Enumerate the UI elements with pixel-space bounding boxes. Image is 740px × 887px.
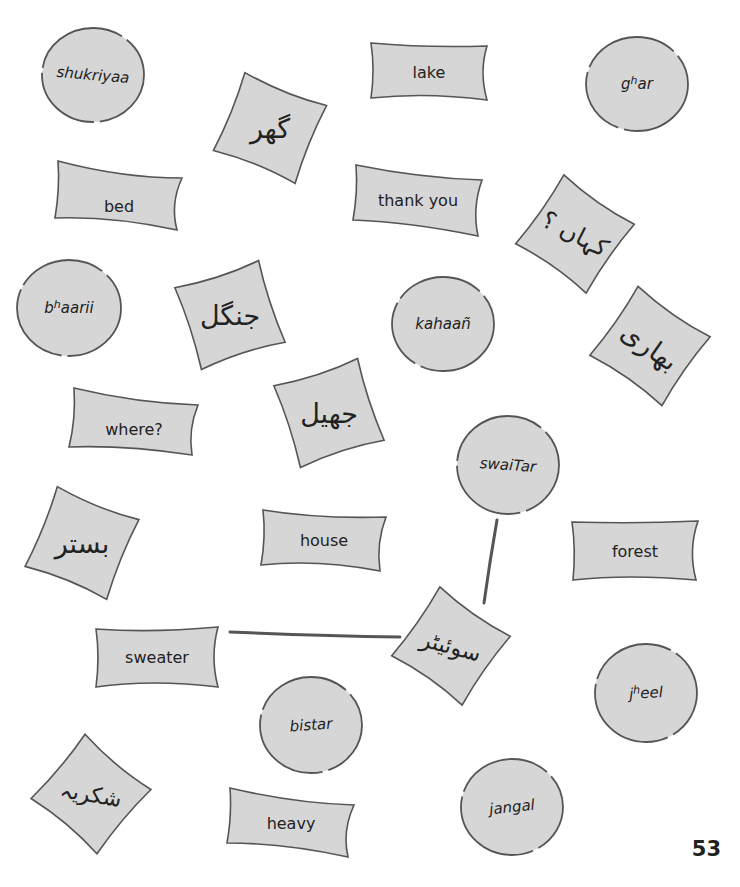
transliteration-circle-swaitar[interactable]: swaiTar — [455, 414, 561, 516]
english-word: thank you — [350, 162, 486, 238]
transliteration-word: kahaañ — [390, 275, 496, 373]
transliteration-circle-bhaarii[interactable]: bhaarii — [15, 258, 123, 358]
english-word: house — [258, 507, 390, 573]
urdu-word: بستر — [34, 496, 130, 590]
page-number: 53 — [692, 837, 721, 861]
transliteration-circle-jheel[interactable]: jheel — [593, 642, 699, 744]
transliteration-word: swaiTar — [452, 410, 565, 519]
transliteration-word: ghar — [584, 35, 690, 133]
urdu-card-ghar[interactable]: گھر — [208, 67, 331, 188]
english-card-where[interactable]: where? — [66, 385, 202, 457]
english-card-sweater[interactable]: sweater — [92, 625, 222, 689]
transliteration-circle-shukriyaa[interactable]: shukriyaa — [40, 26, 146, 124]
transliteration-word: shukriyaa — [36, 22, 150, 129]
urdu-word: شکریہ — [37, 741, 146, 848]
transliteration-circle-ghar[interactable]: ghar — [584, 35, 690, 133]
urdu-word: جنگل — [182, 268, 278, 362]
transliteration-word: bistar — [255, 671, 368, 778]
transliteration-word: jheel — [590, 639, 701, 746]
transliteration-circle-kahaan[interactable]: kahaañ — [390, 275, 496, 373]
connector-urdu-to-sweater — [230, 632, 400, 637]
transliteration-circle-bistar[interactable]: bistar — [258, 675, 364, 775]
connector-swaitar-to-urdu — [484, 520, 497, 603]
transliteration-word: jangal — [454, 752, 570, 863]
english-card-bed[interactable]: bed — [52, 158, 186, 234]
english-card-forest[interactable]: forest — [568, 518, 702, 584]
english-word: heavy — [224, 785, 358, 861]
urdu-card-jheel[interactable]: جھیل — [269, 353, 389, 472]
english-card-thank-you[interactable]: thank you — [350, 162, 486, 238]
urdu-word: گھر — [222, 82, 318, 174]
urdu-card-bistar[interactable]: بستر — [20, 481, 144, 604]
transliteration-word: bhaarii — [15, 258, 123, 358]
urdu-card-jangal[interactable]: جنگل — [170, 255, 290, 374]
english-card-house[interactable]: house — [258, 507, 390, 573]
english-card-lake[interactable]: lake — [367, 40, 491, 104]
english-word: sweater — [92, 625, 222, 689]
english-word: forest — [568, 518, 702, 584]
english-card-heavy[interactable]: heavy — [224, 785, 358, 861]
english-word: lake — [367, 40, 491, 104]
english-word: where? — [66, 385, 202, 465]
english-word: bed — [52, 158, 186, 244]
transliteration-circle-jangal[interactable]: jangal — [459, 757, 565, 857]
urdu-word: جھیل — [281, 366, 377, 460]
